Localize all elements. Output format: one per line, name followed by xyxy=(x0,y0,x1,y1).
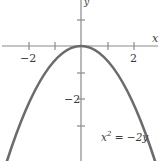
equation-label: x2 = −2y xyxy=(101,130,149,143)
x-axis-label: x xyxy=(152,32,159,45)
y-axis-label: y xyxy=(83,0,90,7)
tick-label-x-pos2: 2 xyxy=(130,52,137,65)
parabola-chart: x y −2 2 −2 x2 = −2y xyxy=(0,0,162,161)
equation-rest: = −2y xyxy=(111,131,149,143)
tick-label-x-neg2: −2 xyxy=(20,52,36,65)
tick-label-y-neg2: −2 xyxy=(64,93,80,106)
